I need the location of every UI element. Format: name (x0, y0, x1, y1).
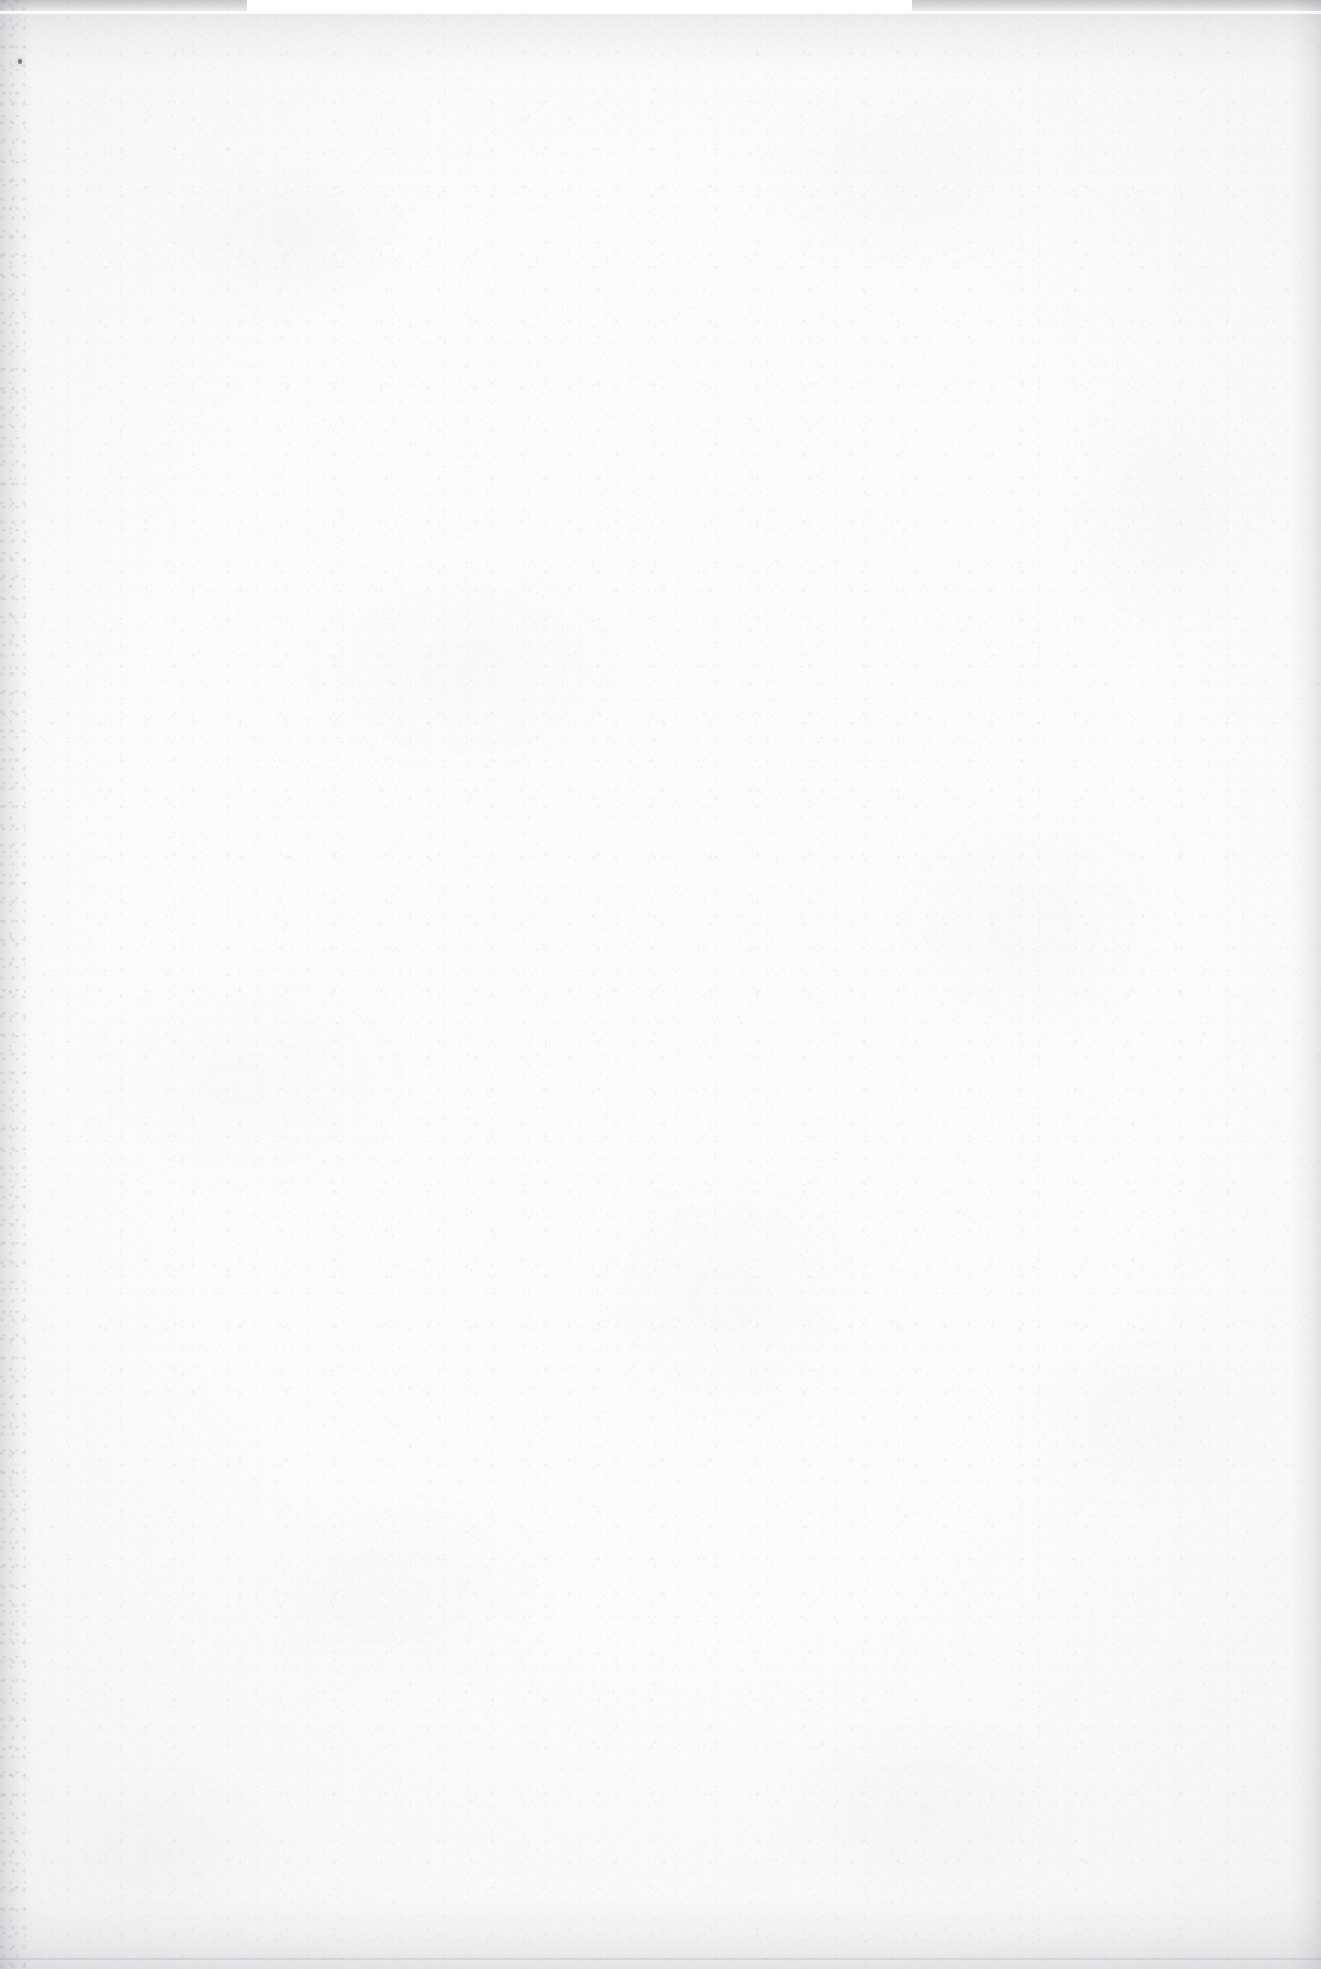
left-edge-fiber-texture (0, 0, 26, 1969)
page-content-area (0, 0, 1321, 1969)
top-edge-falloff (0, 13, 1321, 73)
right-edge-shadow (1291, 0, 1321, 1969)
top-white-notch (247, 0, 912, 11)
bottom-rule-line (0, 1958, 1321, 1960)
scanned-page (0, 0, 1321, 1969)
top-scan-rule-line (0, 11, 1321, 14)
dust-speck-icon (18, 59, 22, 64)
